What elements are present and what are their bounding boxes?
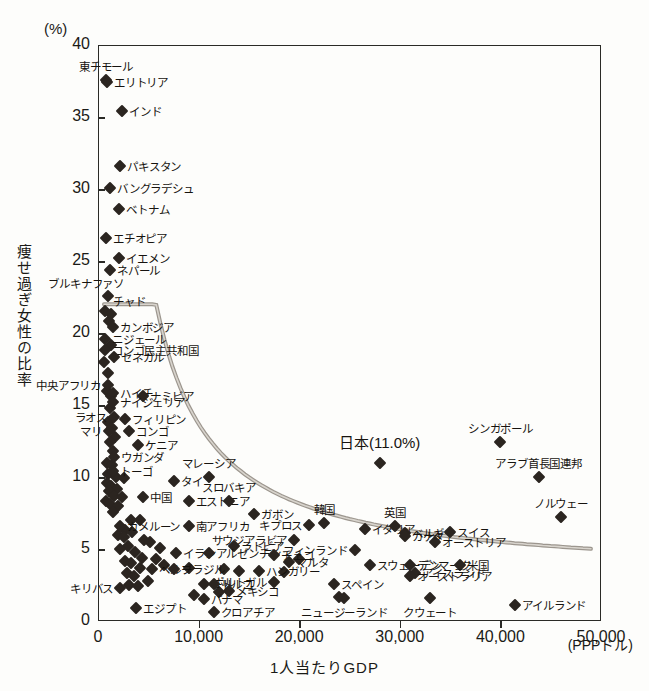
y-tick-label: 5 [38, 539, 90, 557]
data-point-label: アラブ首長国連邦 [495, 455, 581, 471]
data-point-label: キプロス [259, 517, 302, 533]
data-point-label: ブルキナファソ [48, 275, 124, 291]
x-tick-mark [500, 621, 502, 628]
x-tick-label: 0 [94, 628, 103, 646]
data-point-label: エジプト [143, 600, 186, 616]
y-tick-label: 25 [38, 251, 90, 269]
x-tick-mark [299, 621, 301, 628]
data-point-label: 中央アフリカ [36, 377, 101, 393]
data-point-label: 英国 [384, 504, 406, 520]
data-point-label: スペイン [341, 576, 383, 592]
x-tick-label: 10,000 [174, 628, 223, 646]
data-point-label: カメルーン [127, 518, 180, 534]
y-tick-mark [98, 261, 105, 263]
y-tick-label: 35 [38, 107, 90, 125]
y-tick-label: 30 [38, 179, 90, 197]
y-tick-label: 0 [38, 611, 90, 629]
data-point-label: 中国 [150, 489, 172, 505]
data-point-label: クウェート [403, 604, 457, 620]
data-point-label: ナイジェリア [120, 394, 185, 410]
data-point-label: エチオピア [113, 230, 167, 246]
data-point-label: クロアチア [221, 604, 275, 620]
y-tick-label: 20 [38, 323, 90, 341]
x-tick-label: 40,000 [476, 628, 525, 646]
data-point-label: シンガポール [468, 420, 533, 436]
y-tick-mark [98, 117, 105, 119]
y-axis-title: 痩せ過ぎ女性の比率 [14, 244, 33, 388]
data-point-label: オーストラリア [417, 568, 492, 584]
data-point-label: スロバキア [202, 479, 256, 495]
data-point-label: マリ [80, 423, 102, 439]
data-point-label: パキスタン [127, 158, 181, 174]
y-tick-label: 40 [38, 35, 90, 53]
data-point-label: キリバス [70, 580, 113, 596]
x-tick-label: 50,000 [577, 628, 626, 646]
data-point-label: セネガル [121, 349, 164, 365]
x-tick-label: 20,000 [275, 628, 324, 646]
data-point-label: インド [129, 103, 161, 119]
x-tick-label: 30,000 [375, 628, 424, 646]
y-tick-label: 10 [38, 467, 90, 485]
data-point-label: ベトナム [126, 201, 169, 217]
data-point-label: オーストリア [442, 534, 506, 550]
data-point-label: アイルランド [522, 597, 586, 613]
data-point-label: チャド [113, 293, 145, 309]
x-tick-mark [400, 621, 402, 628]
data-point-label: 韓国 [314, 501, 336, 517]
data-point-label: エリトリア [114, 74, 168, 90]
data-point-label: ノルウェー [534, 495, 588, 511]
chart-canvas: (%) 痩せ過ぎ女性の比率 1人当たりGDP (PPPドル) 403530252… [0, 0, 649, 691]
japan-highlight-label: 日本(11.0%) [339, 430, 420, 451]
data-point-label: ニュージーランド [301, 604, 387, 620]
data-point-label: タイ [181, 473, 203, 489]
data-point-label: 東チモール [79, 58, 133, 74]
y-tick-mark [98, 549, 105, 551]
data-point-label: トーゴ [120, 463, 152, 479]
data-point-label: マレーシア [182, 455, 236, 471]
data-point-label: バングラデシュ [117, 180, 194, 196]
x-axis-title: 1人当たりGDP [0, 656, 649, 677]
x-tick-mark [199, 621, 201, 628]
